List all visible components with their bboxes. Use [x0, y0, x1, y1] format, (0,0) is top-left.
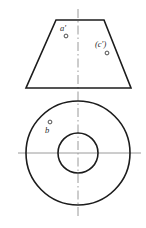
point-marker-b: [48, 120, 52, 124]
point-marker-a-prime: [64, 34, 68, 38]
point-marker-c-prime: [105, 51, 109, 55]
point-label-a-prime: a': [60, 23, 66, 33]
point-label-b: b: [45, 125, 49, 135]
point-label-c-prime: (c'): [95, 39, 106, 49]
engineering-drawing-canvas: a' (c') b: [0, 0, 146, 228]
drawing-sheet: a' (c') b: [0, 0, 146, 228]
